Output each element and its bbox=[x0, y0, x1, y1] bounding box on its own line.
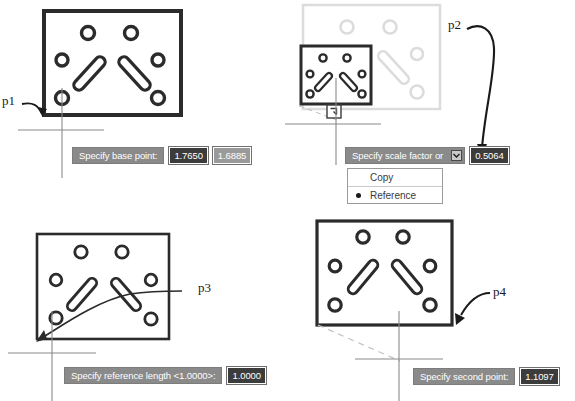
prompt-text-second-point: Specify second point: bbox=[413, 368, 515, 385]
field-scale-factor[interactable]: 0.5064 bbox=[470, 147, 508, 164]
chevron-down-icon[interactable] bbox=[451, 150, 462, 161]
panel-reference-length: p3 Specify reference length <1.0000>: 1.… bbox=[0, 215, 290, 401]
option-reference-marker bbox=[352, 193, 364, 198]
field-base-point-y[interactable]: 1.6885 bbox=[213, 147, 251, 164]
panel-1-drawing bbox=[0, 0, 290, 200]
prompt-text-scale-factor: Specify scale factor or bbox=[345, 147, 465, 164]
p4-arrowhead bbox=[455, 313, 465, 325]
scale-options-menu: Copy Reference bbox=[347, 168, 443, 204]
point-label-p1: p1 bbox=[2, 93, 15, 109]
prompt-bar-reference-length: Specify reference length <1.0000>: 1.000… bbox=[64, 367, 266, 384]
prompt-bar-scale-factor: Specify scale factor or 0.5064 bbox=[345, 147, 509, 164]
prompt-text-reference-length: Specify reference length <1.0000>: bbox=[64, 367, 222, 384]
prompt-text-scale-factor-label: Specify scale factor or bbox=[352, 147, 443, 164]
option-reference-label: Reference bbox=[364, 190, 416, 201]
point-label-p4: p4 bbox=[493, 284, 506, 300]
option-reference[interactable]: Reference bbox=[348, 186, 442, 203]
panel-base-point: p1 Specify base point: 1.7650 1.6885 bbox=[0, 0, 290, 200]
plate-outline bbox=[44, 11, 181, 115]
field-second-point[interactable]: 1.1097 bbox=[520, 368, 558, 385]
option-copy-label: Copy bbox=[364, 172, 393, 183]
field-base-point-x[interactable]: 1.7650 bbox=[169, 147, 207, 164]
point-label-p3: p3 bbox=[198, 280, 211, 296]
p2-leader bbox=[467, 26, 494, 148]
p4-leader bbox=[461, 293, 490, 315]
panel-scale-factor: p2 Specify scale factor or 0.5064 Copy R… bbox=[285, 0, 575, 215]
prompt-bar-second-point: Specify second point: 1.1097 bbox=[413, 368, 559, 385]
bullet-icon bbox=[356, 193, 361, 198]
point-label-p2: p2 bbox=[448, 17, 461, 33]
prompt-bar-base-point: Specify base point: 1.7650 1.6885 bbox=[72, 147, 251, 164]
option-copy[interactable]: Copy bbox=[348, 169, 442, 186]
grip-marker[interactable] bbox=[327, 105, 341, 118]
field-reference-length[interactable]: 1.0000 bbox=[227, 367, 265, 384]
panel-second-point: p4 Specify second point: 1.1097 bbox=[285, 215, 575, 401]
prompt-text-base-point: Specify base point: bbox=[72, 147, 164, 164]
rubber-band-line bbox=[318, 325, 400, 361]
